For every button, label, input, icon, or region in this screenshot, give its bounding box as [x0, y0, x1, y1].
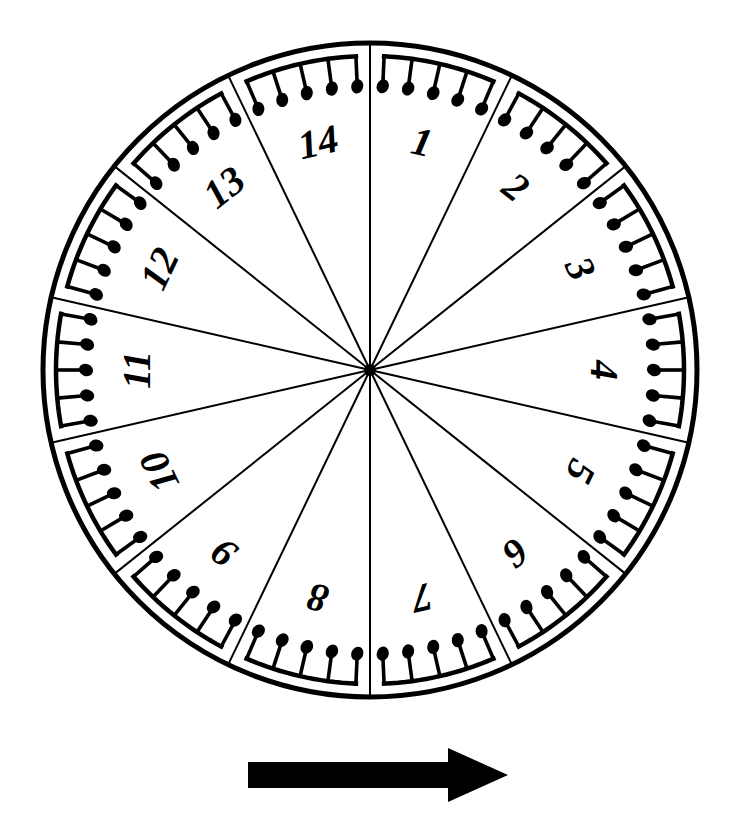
sector-number-11: 11 [114, 351, 159, 389]
sector-number-4: 4 [582, 359, 627, 380]
wheel-hub [364, 364, 376, 376]
background [0, 0, 736, 839]
rhythm-wheel-canvas: 1234567891011121314 [0, 0, 736, 839]
wheel-figure: 1234567891011121314 [0, 0, 736, 839]
